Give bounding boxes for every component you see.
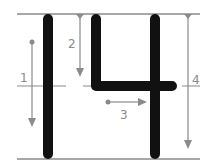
stroke-2-label: 2 [68, 37, 76, 51]
stroke-3-arrow [106, 98, 148, 106]
stroke-4-arrow [184, 14, 192, 149]
digit-four-left-stroke [96, 19, 172, 86]
stroke-order-diagram: 1 2 3 4 [0, 0, 217, 167]
stroke-1-arrow [28, 40, 36, 128]
stroke-4-label: 4 [192, 73, 200, 87]
stroke-3-label: 3 [120, 108, 128, 122]
stroke-2-arrow [76, 14, 84, 77]
stroke-1-label: 1 [20, 71, 28, 85]
